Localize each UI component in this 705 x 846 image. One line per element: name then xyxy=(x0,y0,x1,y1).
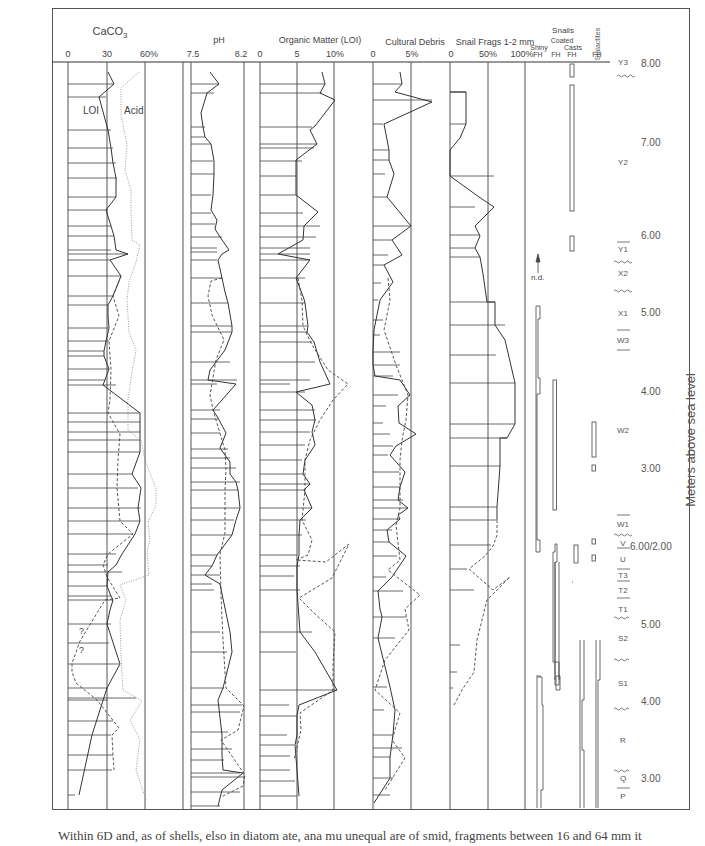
unit-label: W3 xyxy=(617,336,629,345)
unit-label: W1 xyxy=(617,520,629,529)
elevation-tick-break: 6.00/2.00 xyxy=(630,541,672,552)
acid-label: Acid xyxy=(124,105,143,116)
unit-label: S1 xyxy=(618,679,628,688)
elevation-tick: 3.00 xyxy=(641,773,660,784)
unit-label: Q xyxy=(620,774,626,783)
unit-label: P xyxy=(620,792,625,801)
elevation-tick: 3.00 xyxy=(641,463,660,474)
question-mark-2: ? xyxy=(79,645,84,655)
elevation-tick: 7.00 xyxy=(641,137,660,148)
figure-caption-partial: Within 6D and, as of shells, elso in dia… xyxy=(58,828,642,844)
elevation-tick: 5.00 xyxy=(641,307,660,318)
unit-label: Y2 xyxy=(618,158,628,167)
not-determined-label: n.d. xyxy=(531,273,544,282)
elevation-tick: 4.00 xyxy=(641,696,660,707)
unit-label: Y1 xyxy=(618,245,628,254)
loi-label: LOI xyxy=(83,105,99,116)
unit-label: X2 xyxy=(618,269,628,278)
elevation-tick: 8.00 xyxy=(641,58,660,69)
unit-label: T2 xyxy=(618,586,627,595)
unit-label: W2 xyxy=(617,426,629,435)
elevation-tick: 5.00 xyxy=(641,619,660,630)
stratigraphic-figure: CaCO3 0 30 60% pH 7.5 8.2 Organic Matter… xyxy=(0,0,705,846)
question-mark-1: ? xyxy=(79,626,84,636)
unit-label: X1 xyxy=(618,309,628,318)
unit-label: T3 xyxy=(618,571,627,580)
unit-label: V xyxy=(620,539,625,548)
unit-label: S2 xyxy=(618,634,628,643)
elevation-tick: 4.00 xyxy=(641,386,660,397)
unit-label: R xyxy=(620,736,626,745)
unit-label: U xyxy=(620,555,626,564)
unit-label: Y3 xyxy=(618,58,628,67)
plot-area xyxy=(0,0,705,846)
y-axis-label: Meters above sea level xyxy=(683,373,698,507)
unit-label: T1 xyxy=(618,605,627,614)
elevation-tick: 6.00 xyxy=(641,230,660,241)
